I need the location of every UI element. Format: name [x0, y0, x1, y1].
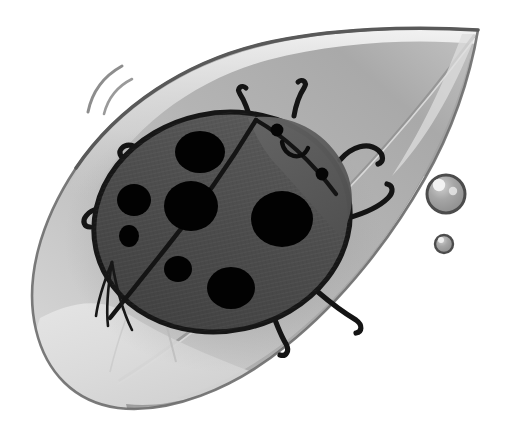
motion-lines — [88, 66, 132, 114]
left-eye — [271, 124, 284, 137]
spot-upper-left — [175, 131, 225, 173]
ladybug-leaf-illustration — [0, 0, 520, 439]
right-eye — [316, 168, 329, 181]
large-droplet-body — [427, 175, 465, 213]
small-droplet — [435, 235, 453, 253]
large-droplet-highlight-secondary — [449, 187, 457, 195]
spot-left-tiny — [119, 225, 139, 247]
spot-lower-large — [207, 267, 255, 309]
spot-left-small — [117, 184, 151, 216]
large-droplet-highlight-primary — [433, 179, 445, 191]
large-droplet — [427, 175, 465, 213]
small-droplet-body — [435, 235, 453, 253]
small-droplet-highlight — [438, 237, 444, 243]
water-droplets — [427, 175, 465, 253]
spot-center — [164, 181, 218, 231]
illustration-canvas: Ladybug resting on a leaf — [0, 0, 520, 439]
spot-right-large — [251, 191, 313, 247]
spot-lower-small — [164, 256, 192, 282]
